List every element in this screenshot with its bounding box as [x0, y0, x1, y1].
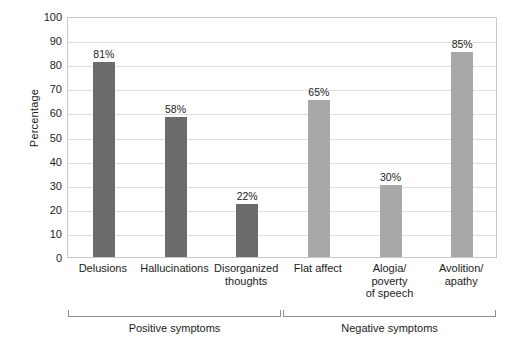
- plot-area: 81%58%22%65%30%85%: [67, 17, 497, 258]
- y-axis-tick-100: 100: [36, 11, 62, 23]
- group-bracket-label: Negative symptoms: [341, 322, 438, 334]
- x-axis-label: Avolition/apathy: [409, 262, 513, 287]
- x-axis-label-line: apathy: [409, 275, 513, 288]
- group-bracket: [283, 310, 496, 317]
- y-axis-tick-60: 60: [36, 107, 62, 119]
- bar-value-label: 30%: [380, 171, 401, 183]
- bar-value-label: 65%: [308, 86, 329, 98]
- x-axis-label-line: Avolition/: [409, 262, 513, 275]
- bar-series: 81%58%22%65%30%85%: [68, 18, 496, 257]
- bar-value-label: 22%: [237, 190, 258, 202]
- bar-value-label: 85%: [452, 38, 473, 50]
- group-bracket: [68, 310, 281, 317]
- y-axis-tick-labels: 1009080706050403020100: [36, 17, 62, 258]
- group-bracket-label: Positive symptoms: [129, 322, 221, 334]
- bar: 30%: [380, 185, 402, 257]
- bar: 85%: [451, 52, 473, 257]
- y-axis-tick-90: 90: [36, 35, 62, 47]
- y-axis-tick-10: 10: [36, 228, 62, 240]
- x-axis-label-line: thoughts: [194, 275, 298, 288]
- bar-chart-figure: Percentage 1009080706050403020100 81%58%…: [0, 0, 521, 344]
- y-axis-tick-20: 20: [36, 204, 62, 216]
- x-axis-label-line: of speech: [338, 287, 442, 300]
- y-axis-tick-80: 80: [36, 59, 62, 71]
- bar: 58%: [165, 117, 187, 257]
- y-axis-tick-70: 70: [36, 83, 62, 95]
- x-axis-category-labels: DelusionsHallucinationsDisorganizedthoug…: [67, 262, 497, 308]
- y-axis-tick-50: 50: [36, 132, 62, 144]
- bar: 65%: [308, 100, 330, 257]
- bar: 22%: [236, 204, 258, 257]
- y-axis-tick-40: 40: [36, 156, 62, 168]
- bar-value-label: 58%: [165, 103, 186, 115]
- y-axis-tick-30: 30: [36, 180, 62, 192]
- bar: 81%: [93, 62, 115, 257]
- bar-value-label: 81%: [93, 48, 114, 60]
